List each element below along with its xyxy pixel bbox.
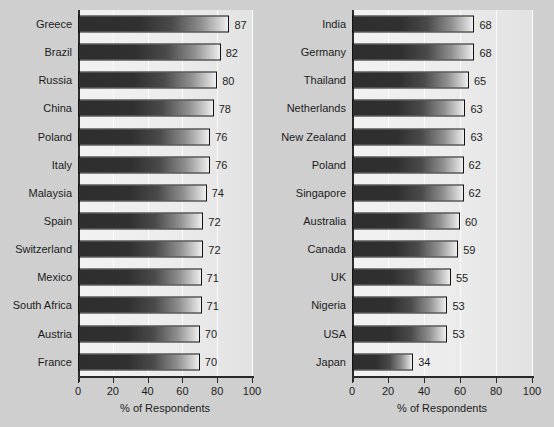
bar-row: South Africa71 — [78, 291, 252, 319]
bar[interactable] — [352, 44, 474, 61]
bar[interactable] — [78, 269, 202, 286]
x-tick — [352, 378, 353, 383]
bar-row: Italy76 — [78, 151, 252, 179]
category-label: Italy — [52, 159, 72, 171]
category-label: Spain — [44, 215, 72, 227]
bar-value-label: 71 — [207, 299, 219, 311]
x-axis-left — [78, 376, 254, 378]
category-label: Greece — [36, 18, 72, 30]
x-tick-label: 40 — [418, 385, 430, 397]
category-label: Canada — [307, 243, 346, 255]
bar-value-label: 72 — [208, 215, 220, 227]
bar-row: Poland76 — [78, 123, 252, 151]
x-tick-label: 60 — [454, 385, 466, 397]
bar-value-label: 70 — [205, 356, 217, 368]
category-label: Brazil — [44, 46, 72, 58]
bar-row: Canada59 — [352, 235, 532, 263]
bar[interactable] — [352, 16, 474, 33]
bar-row: Mexico71 — [78, 263, 252, 291]
bar[interactable] — [352, 297, 447, 314]
bar-container: 76 — [78, 128, 227, 145]
x-tick — [388, 378, 389, 383]
bar-container: 65 — [352, 72, 486, 89]
bar[interactable] — [352, 156, 464, 173]
category-label: South Africa — [13, 299, 72, 311]
x-tick — [252, 378, 253, 383]
category-label: Nigeria — [311, 299, 346, 311]
chart-pair: Greece87Brazil82Russia80China78Poland76I… — [0, 0, 554, 427]
x-tick — [78, 378, 79, 383]
bar[interactable] — [78, 241, 203, 258]
bar-row: China78 — [78, 94, 252, 122]
bar-rows-left: Greece87Brazil82Russia80China78Poland76I… — [78, 10, 252, 376]
x-tick — [148, 378, 149, 383]
bar-container: 70 — [78, 353, 217, 370]
bar[interactable] — [352, 128, 465, 145]
bar-value-label: 59 — [463, 243, 475, 255]
x-tick — [460, 378, 461, 383]
bar-row: Switzerland72 — [78, 235, 252, 263]
bar[interactable] — [352, 269, 451, 286]
bar-row: Greece87 — [78, 10, 252, 38]
bar[interactable] — [352, 184, 464, 201]
category-label: Russia — [38, 74, 72, 86]
bar-container: 71 — [78, 269, 219, 286]
bar[interactable] — [78, 72, 217, 89]
bar-value-label: 82 — [226, 46, 238, 58]
bar[interactable] — [352, 325, 447, 342]
bar-row: Spain72 — [78, 207, 252, 235]
bar[interactable] — [352, 241, 458, 258]
bar-row: Thailand65 — [352, 66, 532, 94]
bar[interactable] — [78, 44, 221, 61]
chart-panel-left: Greece87Brazil82Russia80China78Poland76I… — [0, 0, 277, 427]
bar-value-label: 76 — [215, 159, 227, 171]
bar-value-label: 63 — [470, 102, 482, 114]
bar[interactable] — [78, 128, 210, 145]
bar-value-label: 70 — [205, 328, 217, 340]
bar[interactable] — [352, 72, 469, 89]
x-tick-label: 40 — [141, 385, 153, 397]
bar-value-label: 78 — [219, 102, 231, 114]
category-label: Australia — [303, 215, 346, 227]
bar-value-label: 62 — [469, 159, 481, 171]
bar[interactable] — [78, 325, 200, 342]
bar[interactable] — [78, 213, 203, 230]
bar-row: Russia80 — [78, 66, 252, 94]
x-tick — [113, 378, 114, 383]
category-label: Austria — [38, 328, 72, 340]
bar[interactable] — [78, 156, 210, 173]
bar[interactable] — [78, 353, 200, 370]
bar[interactable] — [78, 297, 202, 314]
bar-value-label: 80 — [222, 74, 234, 86]
bar[interactable] — [78, 100, 214, 117]
bar-row: Malaysia74 — [78, 179, 252, 207]
x-tick-label: 20 — [382, 385, 394, 397]
bar[interactable] — [352, 100, 465, 117]
x-tick-label: 100 — [243, 385, 261, 397]
bar-value-label: 62 — [469, 187, 481, 199]
category-label: Malaysia — [29, 187, 72, 199]
bar-container: 87 — [78, 16, 247, 33]
bar-container: 72 — [78, 213, 221, 230]
bar[interactable] — [352, 353, 413, 370]
category-label: Poland — [38, 131, 72, 143]
bar[interactable] — [352, 213, 460, 230]
x-axis-title-left: % of Respondents — [120, 402, 210, 414]
bar[interactable] — [78, 16, 229, 33]
bar-container: 71 — [78, 297, 219, 314]
bar-container: 68 — [352, 44, 492, 61]
bar-container: 55 — [352, 269, 468, 286]
bar-value-label: 68 — [479, 46, 491, 58]
x-axis-right — [352, 376, 534, 378]
bar[interactable] — [78, 184, 207, 201]
bar-row: Germany68 — [352, 38, 532, 66]
category-label: France — [38, 356, 72, 368]
bar-value-label: 68 — [479, 18, 491, 30]
bar-container: 63 — [352, 128, 483, 145]
category-label: Japan — [316, 356, 346, 368]
category-label: India — [322, 18, 346, 30]
category-label: Netherlands — [287, 102, 346, 114]
bar-row: India68 — [352, 10, 532, 38]
bar-container: 63 — [352, 100, 483, 117]
category-label: Germany — [301, 46, 346, 58]
